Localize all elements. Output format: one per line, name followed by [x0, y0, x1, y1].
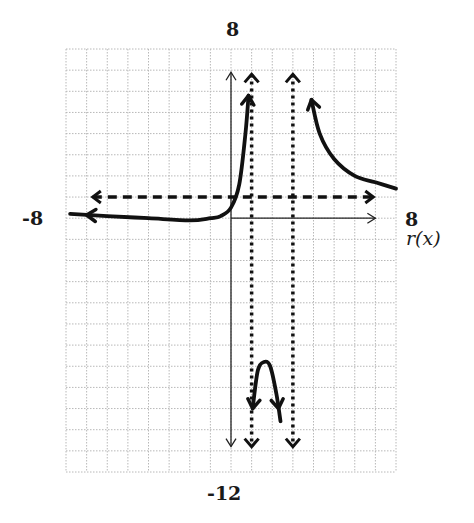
- x-min-label: -8: [22, 207, 43, 229]
- arrow-up-icon: [245, 74, 259, 82]
- function-name-label: r(x): [406, 227, 441, 249]
- y-min-label: -12: [207, 482, 241, 504]
- y-max-label: 8: [226, 18, 239, 40]
- arrow-up-icon: [286, 74, 300, 82]
- function-branch-1: [253, 362, 281, 422]
- rational-function-graph: [0, 0, 474, 523]
- function-curves: [70, 96, 396, 422]
- coordinate-axes: [226, 72, 375, 446]
- function-branch-2: [311, 100, 396, 189]
